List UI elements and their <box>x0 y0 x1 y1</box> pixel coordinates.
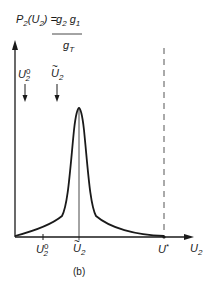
x-axis-label: U2 <box>190 243 202 257</box>
numerator: g2 g1 <box>56 14 80 28</box>
y-axis-arrow-icon <box>12 40 18 50</box>
tick-label-u2-tilde: ~U2 <box>73 243 85 257</box>
marker-u2-zero: U02 <box>18 68 30 83</box>
x-axis-arrow-icon <box>184 234 194 240</box>
gt-subscript: T <box>69 45 74 54</box>
marker-superscript: 0 <box>26 67 30 76</box>
figure-caption: (b) <box>73 266 85 277</box>
tick-label-u-star: U* <box>158 243 169 255</box>
tick-u-symbol: U <box>158 243 166 255</box>
x-u-symbol: U <box>190 242 198 254</box>
tick-superscript: * <box>166 242 169 251</box>
u-arg: (U <box>28 13 40 25</box>
tilde-accent: ~ <box>74 237 80 247</box>
marker-u2-tilde: ~U2 <box>51 68 63 82</box>
g1-subscript: 1 <box>76 19 80 28</box>
u2-tilde-arrow-icon <box>55 95 60 102</box>
distribution-curve <box>15 108 164 236</box>
tilde-accent: ~ <box>52 62 58 72</box>
u2-zero-arrow-icon <box>23 95 28 102</box>
tick-subscript: 2 <box>43 249 47 258</box>
tick-label-u2-zero: U02 <box>36 243 48 258</box>
g2-subscript: 2 <box>62 19 66 28</box>
plot-canvas <box>0 0 214 282</box>
y-axis-formula: P2(U2) = <box>16 14 57 28</box>
x-subscript: 2 <box>198 248 202 257</box>
marker-subscript: 2 <box>59 73 63 82</box>
denominator: gT <box>63 40 74 54</box>
tick-subscript: 2 <box>81 248 85 257</box>
